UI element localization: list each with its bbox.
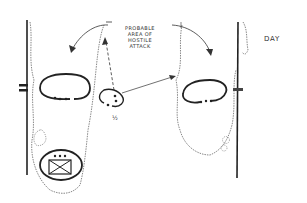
annotation-line-4: ATTACK: [129, 43, 150, 49]
hq-dot: [59, 155, 61, 157]
hq-dot: [54, 155, 56, 157]
left-unit-dot: [59, 98, 62, 101]
movement-arrow-right: [122, 77, 172, 93]
left-road-marker-top: [19, 84, 28, 87]
arrowhead: [69, 45, 76, 53]
right-unit-position: [183, 80, 226, 103]
attack-arrow-right: [172, 25, 210, 52]
left-road-marker-bottom: [19, 89, 28, 92]
half-unit-position: [100, 89, 124, 106]
half-unit-dot: [115, 100, 118, 103]
left-unit-dot: [54, 97, 57, 100]
movement-arrow-up: [106, 42, 114, 90]
half-unit-dot: [107, 104, 110, 107]
left-small-woods: [34, 130, 46, 146]
right-unit-dot: [210, 100, 212, 102]
hq-dot: [64, 155, 66, 157]
hq-position: [40, 150, 82, 180]
left-unit-position: [40, 74, 90, 99]
half-unit-dot: [114, 95, 117, 98]
tactical-diagram: ½ PROBABLE AREA OF HOSTILE ATTACK DAY: [0, 0, 307, 203]
arrowhead: [169, 75, 176, 80]
right-small-woods-2: [221, 145, 227, 151]
right-unit-dot: [205, 100, 207, 102]
arrowhead: [102, 37, 108, 45]
right-edge-treeline: [242, 22, 248, 54]
period-label: DAY: [264, 35, 280, 43]
right-road-marker: [233, 88, 243, 91]
arrowhead: [206, 49, 213, 56]
left-unit-dot: [65, 98, 68, 101]
right-unit-dot: [200, 101, 202, 103]
right-road-line: [237, 22, 238, 178]
attack-arrow-left: [72, 25, 108, 50]
half-unit-label: ½: [112, 114, 118, 121]
